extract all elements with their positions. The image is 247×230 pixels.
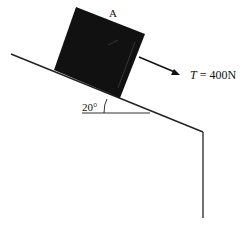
- force-value: 400N: [209, 68, 236, 82]
- tension-arrowhead-icon: [171, 69, 180, 75]
- tension-arrow-shaft: [139, 57, 177, 73]
- angle-label: 20°: [82, 101, 97, 113]
- incline-diagram: A 20° T = 400N: [0, 0, 247, 230]
- force-equals: =: [197, 68, 210, 82]
- force-label: T = 400N: [190, 68, 236, 82]
- angle-arc-icon: [104, 99, 107, 113]
- block-label: A: [109, 7, 117, 19]
